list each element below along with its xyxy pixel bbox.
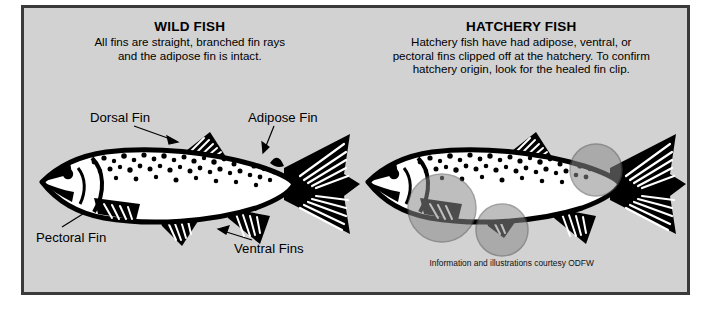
hatchery-fish-panel: HATCHERY FISH Hatchery fish have had adi… (356, 8, 688, 292)
wild-fish-panel: WILD FISH All fins are straight, branche… (24, 8, 356, 292)
highlight-pectoral-clip (408, 174, 476, 242)
hatchery-fish-heading: HATCHERY FISH (356, 19, 688, 34)
poster-panel: WILD FISH All fins are straight, branche… (21, 5, 690, 295)
hatchery-fish-illustration (358, 126, 688, 251)
hatchery-fish-description: Hatchery fish have had adipose, ventral,… (356, 35, 688, 76)
highlight-ventral-clip (476, 204, 528, 256)
hatchery-fish-description-line-2: pectoral fins clipped off at the hatcher… (356, 49, 688, 63)
highlight-adipose-clip (570, 144, 622, 196)
credit-line: Information and illustrations courtesy O… (430, 258, 594, 268)
hatchery-fish-description-line-3: hatchery origin, look for the healed fin… (356, 62, 688, 76)
hatchery-fish-description-line-1: Hatchery fish have had adipose, ventral,… (356, 35, 688, 49)
wild-fish-illustration (32, 126, 362, 246)
